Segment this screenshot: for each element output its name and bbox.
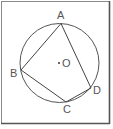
label-c: C: [63, 103, 71, 115]
geometry-diagram: A B C D O: [0, 0, 113, 129]
label-d: D: [93, 84, 101, 96]
center-point-o: [58, 62, 60, 64]
label-b: B: [10, 67, 17, 79]
label-o: O: [62, 57, 71, 69]
label-a: A: [57, 9, 65, 21]
